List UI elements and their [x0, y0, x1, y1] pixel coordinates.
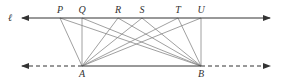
point-labels: ℓPQRSTUAB	[8, 4, 205, 79]
line-label: ℓ	[8, 12, 12, 23]
point-label-P: P	[56, 4, 63, 15]
segment-AS	[82, 18, 142, 66]
point-label-R: R	[114, 4, 121, 15]
connecting-segments	[60, 18, 201, 66]
segment-BS	[142, 18, 201, 66]
segment-AP	[60, 18, 82, 66]
segment-BT	[178, 18, 201, 66]
point-label-T: T	[175, 4, 182, 15]
point-label-S: S	[140, 4, 145, 15]
point-label-Q: Q	[78, 4, 86, 15]
point-label-U: U	[197, 4, 205, 15]
point-label-A: A	[78, 68, 86, 79]
geometry-diagram: ℓPQRSTUAB	[0, 0, 282, 81]
point-label-B: B	[198, 68, 204, 79]
parallel-lines	[22, 18, 270, 66]
